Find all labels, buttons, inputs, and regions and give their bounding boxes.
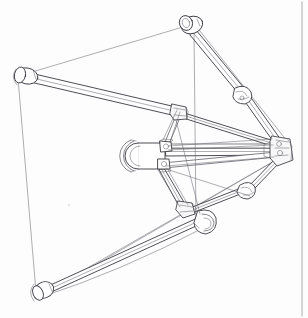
scan-speck xyxy=(68,204,70,206)
joint-lower-pulley xyxy=(194,210,216,234)
joint-upper-right xyxy=(233,86,252,104)
figure-canvas: Parallel linkage mechanism Technical lin… xyxy=(0,0,308,318)
clevis-body xyxy=(160,141,172,152)
linkage-mechanism-drawing xyxy=(0,0,308,318)
ball-body xyxy=(233,86,252,104)
pulley-body xyxy=(194,210,216,234)
joint-lower-right xyxy=(237,182,255,199)
clevis-body xyxy=(158,159,170,169)
ball-body xyxy=(237,182,255,199)
block-body xyxy=(170,104,187,120)
